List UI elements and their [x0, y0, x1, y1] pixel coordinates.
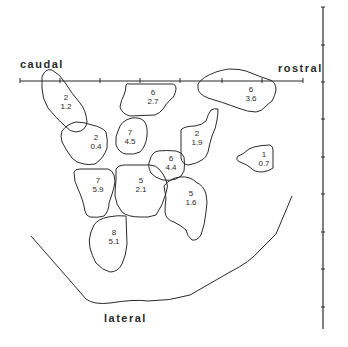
region-count: 6 — [151, 88, 156, 97]
lateral-boundary-curve — [31, 196, 292, 304]
region-count: 7 — [128, 128, 133, 137]
region-value: 5.1 — [108, 237, 120, 246]
region-outline-r11 — [164, 177, 207, 240]
region-value: 0.4 — [90, 142, 102, 151]
region-value: 2.1 — [135, 185, 147, 194]
region-label-r6: 21.9 — [191, 129, 203, 147]
region-value: 3.6 — [245, 94, 257, 103]
region-label-r7: 10.7 — [258, 150, 270, 168]
region-outlines — [42, 69, 276, 272]
region-label-r12: 85.1 — [108, 228, 120, 246]
region-count: 1 — [262, 150, 267, 159]
region-count: 5 — [189, 189, 194, 198]
region-value: 1.9 — [191, 138, 203, 147]
region-label-r1: 21.2 — [60, 93, 72, 111]
region-outline-r3 — [198, 69, 276, 112]
region-value: 4.5 — [124, 137, 136, 146]
region-count: 2 — [64, 93, 69, 102]
region-label-r8: 64.4 — [165, 154, 177, 172]
region-count: 7 — [96, 176, 101, 185]
region-count: 2 — [94, 133, 99, 142]
region-label-r11: 51.6 — [185, 189, 197, 207]
region-value: 2.7 — [147, 97, 159, 106]
region-outline-r6 — [181, 109, 218, 165]
rostral-label: rostral — [278, 62, 323, 74]
region-label-r3: 63.6 — [245, 85, 257, 103]
region-count: 6 — [249, 85, 254, 94]
region-label-r10: 52.1 — [135, 176, 147, 194]
region-label-r4: 20.4 — [90, 133, 102, 151]
region-count: 5 — [139, 176, 144, 185]
region-labels: 21.262.763.620.474.521.910.764.475.952.1… — [60, 85, 270, 246]
region-count: 6 — [169, 154, 174, 163]
region-value: 1.2 — [60, 102, 72, 111]
region-label-r5: 74.5 — [124, 128, 136, 146]
caudal-label: caudal — [20, 58, 64, 70]
region-count: 8 — [112, 228, 117, 237]
region-count: 2 — [195, 129, 200, 138]
region-label-r9: 75.9 — [92, 176, 104, 194]
region-value: 4.4 — [165, 163, 177, 172]
lateral-label: lateral — [104, 312, 147, 324]
vertical-scale-bar — [321, 7, 325, 329]
somatotopic-map-diagram: caudal rostral lateral — [0, 0, 348, 347]
region-value: 1.6 — [185, 198, 197, 207]
region-value: 5.9 — [92, 185, 104, 194]
region-value: 0.7 — [258, 159, 270, 168]
region-label-r2: 62.7 — [147, 88, 159, 106]
